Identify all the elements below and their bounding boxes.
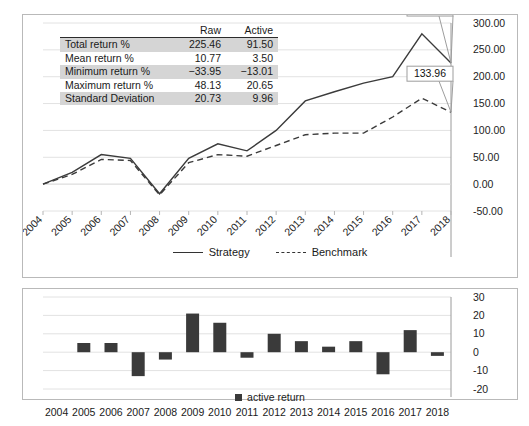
stat-value-active: 91.50 xyxy=(226,38,278,52)
y-axis-tick-label: 10 xyxy=(473,327,485,339)
bar xyxy=(404,330,417,352)
y-axis-tick-label: 0 xyxy=(473,346,479,358)
legend-item-benchmark: Benchmark xyxy=(276,246,368,258)
table-header-row: Raw Active xyxy=(60,24,278,38)
legend-label-strategy: Strategy xyxy=(209,246,250,258)
series-line-benchmark xyxy=(43,98,451,195)
y-axis-tick-label: 30 xyxy=(473,291,485,303)
x-axis-tick-label: 2010 xyxy=(206,406,233,418)
table-row: Total return %225.4691.50 xyxy=(60,38,278,52)
bar xyxy=(295,341,308,352)
bar xyxy=(159,352,172,359)
x-axis-tick-label: 2009 xyxy=(165,213,190,238)
x-axis-tick-label: 2009 xyxy=(179,406,206,418)
x-axis-tick-label: 2011 xyxy=(233,406,260,418)
callout-value: 133.96 xyxy=(414,67,446,79)
bar xyxy=(322,347,335,353)
table-row: Maximum return %48.1320.65 xyxy=(60,79,278,92)
bar-chart-legend: active return xyxy=(22,391,518,403)
x-axis-tick-label: 2010 xyxy=(194,213,219,238)
y-axis-tick-label: 20 xyxy=(473,309,485,321)
bar xyxy=(105,343,118,352)
bar xyxy=(241,352,254,358)
stat-row-label: Maximum return % xyxy=(60,79,174,92)
x-axis-tick-label: 2004 xyxy=(43,406,70,418)
bar xyxy=(349,341,362,352)
x-axis-tick-label: 2005 xyxy=(70,406,97,418)
stat-row-label: Standard Deviation xyxy=(60,92,174,105)
y-axis-tick-label: 100.00 xyxy=(473,124,505,136)
stat-row-label: Mean return % xyxy=(60,52,174,65)
statistics-table: Raw Active Total return %225.4691.50Mean… xyxy=(60,24,278,105)
statistics-table-body: Total return %225.4691.50Mean return %10… xyxy=(60,38,278,106)
bar xyxy=(268,334,281,352)
x-axis-tick-label: 2015 xyxy=(342,406,369,418)
column-header-active: Active xyxy=(226,24,278,38)
y-axis-tick-label: 50.00 xyxy=(473,151,499,163)
stat-value-raw: 20.73 xyxy=(174,92,226,105)
x-axis-tick-label: 2017 xyxy=(397,406,424,418)
column-header-blank xyxy=(60,24,174,38)
y-axis-tick-label: 150.00 xyxy=(473,97,505,109)
x-axis-tick-label: 2006 xyxy=(78,213,103,238)
x-axis-tick-label: 2012 xyxy=(253,213,278,238)
y-axis-tick-label: 0.00 xyxy=(473,178,494,190)
stat-value-raw: 48.13 xyxy=(174,79,226,92)
bar xyxy=(77,343,90,352)
x-axis-tick-label: 2012 xyxy=(261,406,288,418)
x-axis-tick-label: 2013 xyxy=(282,213,307,238)
x-axis-tick-label: 2005 xyxy=(49,213,74,238)
table-row: Minimum return %−33.95−13.01 xyxy=(60,65,278,78)
stat-value-active: 3.50 xyxy=(226,52,278,65)
bar xyxy=(186,314,199,353)
x-axis-tick-label: 2007 xyxy=(125,406,152,418)
dashed-line-swatch-icon xyxy=(276,252,306,253)
y-axis-tick-label: 200.00 xyxy=(473,70,505,82)
bar xyxy=(132,352,145,376)
bar xyxy=(431,352,444,356)
stat-value-raw: 225.46 xyxy=(174,38,226,52)
strategy-end-callout: 225.46 xyxy=(407,15,453,63)
active-return-panel: -20-100102030 xyxy=(22,288,518,400)
table-row: Mean return %10.773.50 xyxy=(60,52,278,65)
bar xyxy=(213,323,226,352)
x-axis-tick-label: 2011 xyxy=(224,213,249,238)
active-return-chart: -20-100102030 xyxy=(23,289,517,399)
x-axis-tick-label: 2018 xyxy=(427,213,452,238)
stat-value-active: 9.96 xyxy=(226,92,278,105)
benchmark-end-callout: 133.96 xyxy=(407,66,453,112)
bar-swatch-icon xyxy=(235,394,242,401)
x-axis-tick-label: 2007 xyxy=(107,213,132,238)
solid-line-swatch-icon xyxy=(173,252,203,253)
x-axis-tick-label: 2014 xyxy=(315,406,342,418)
legend-label-benchmark: Benchmark xyxy=(312,246,368,258)
x-axis-tick-label: 2006 xyxy=(97,406,124,418)
stat-value-active: −13.01 xyxy=(226,65,278,78)
line-chart-legend: Strategy Benchmark xyxy=(22,246,518,258)
x-axis-tick-label: 2015 xyxy=(340,213,365,238)
column-header-raw: Raw xyxy=(174,24,226,38)
stat-value-raw: −33.95 xyxy=(174,65,226,78)
x-axis-tick-label: 2016 xyxy=(369,213,394,238)
stat-value-raw: 10.77 xyxy=(174,52,226,65)
y-axis-tick-label: -10 xyxy=(473,364,488,376)
x-axis-tick-label: 2008 xyxy=(136,213,161,238)
y-axis-tick-label: 300.00 xyxy=(473,17,505,29)
x-axis-tick-label: 2017 xyxy=(398,213,423,238)
legend-label-active-return: active return xyxy=(247,391,305,403)
stat-row-label: Minimum return % xyxy=(60,65,174,78)
legend-item-strategy: Strategy xyxy=(173,246,250,258)
x-axis-tick-label: 2014 xyxy=(311,213,336,238)
x-axis-tick-label: 2018 xyxy=(424,406,451,418)
x-axis-tick-label: 2013 xyxy=(288,406,315,418)
stat-value-active: 20.65 xyxy=(226,79,278,92)
x-axis-tick-label: 2004 xyxy=(23,213,45,238)
x-axis-tick-label: 2016 xyxy=(369,406,396,418)
x-axis-tick-label: 2008 xyxy=(152,406,179,418)
y-axis-tick-label: 250.00 xyxy=(473,43,505,55)
y-axis-tick-label: -50.00 xyxy=(473,205,503,217)
table-row: Standard Deviation20.739.96 xyxy=(60,92,278,105)
statistics-table-head: Raw Active xyxy=(60,24,278,38)
bar xyxy=(377,352,390,374)
stat-row-label: Total return % xyxy=(60,38,174,52)
